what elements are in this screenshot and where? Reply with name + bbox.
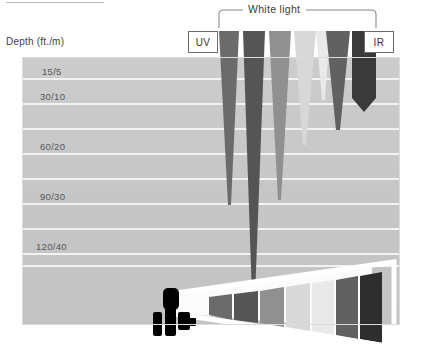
gridline-0 bbox=[22, 78, 400, 80]
uv-label-box: UV bbox=[188, 31, 218, 53]
depth-tick-60-20: 60/20 bbox=[40, 141, 65, 152]
gridline-6 bbox=[22, 228, 400, 230]
gridline-3 bbox=[22, 153, 400, 155]
gridline-5 bbox=[22, 203, 400, 205]
gridline-1 bbox=[22, 103, 400, 105]
depth-tick-15-5: 15/5 bbox=[42, 66, 62, 77]
depth-axis-title: Depth (ft./m) bbox=[6, 36, 64, 47]
depth-tick-120-40: 120/40 bbox=[36, 241, 67, 252]
gridline-8 bbox=[22, 265, 400, 267]
caption-remnant-text: LIGHT ABSORPTION IN WATER bbox=[6, 0, 104, 1]
white-light-label: White light bbox=[248, 3, 300, 15]
gridline-2 bbox=[22, 128, 400, 130]
caption-remnant: LIGHT ABSORPTION IN WATER bbox=[6, 0, 104, 3]
water-depth-panel bbox=[22, 57, 400, 325]
figure-root: LIGHT ABSORPTION IN WATER Depth (ft./m) … bbox=[0, 0, 423, 357]
uv-label-text: UV bbox=[196, 37, 211, 48]
caption-remnant-rule bbox=[6, 2, 104, 3]
depth-tick-30-10: 30/10 bbox=[40, 91, 65, 102]
gridline-4 bbox=[22, 178, 400, 180]
ir-label-text: IR bbox=[374, 37, 385, 48]
gridline-7 bbox=[22, 253, 400, 255]
water-gradient bbox=[22, 57, 400, 325]
depth-tick-90-30: 90/30 bbox=[40, 191, 65, 202]
ir-label-box: IR bbox=[364, 31, 394, 53]
